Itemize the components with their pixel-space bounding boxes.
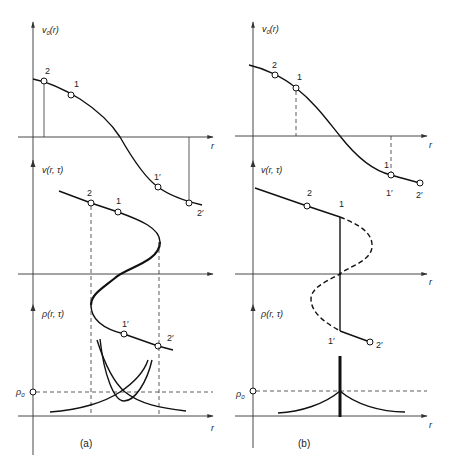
rho0-label-b: ρ0 (235, 389, 245, 400)
point-2prime-top-a (186, 200, 192, 206)
label-2-top-b: 2 (272, 60, 277, 70)
point-1prime-top-b (388, 172, 394, 178)
v-curve-upper-a (59, 191, 160, 242)
point-2prime-mid-b (367, 339, 373, 345)
caption-b: (b) (298, 438, 310, 449)
xlabel-top-b: r (429, 140, 433, 150)
label-1-mid-a: 1 (116, 196, 121, 206)
point-1-top-b (293, 85, 299, 91)
figure: v0(r) r v(r, τ) ρ(r, τ) r ρ0 2 1 2 1 1′ … (0, 0, 449, 468)
shock-axis-point-b (339, 273, 341, 275)
xlabel-middle-b: r (429, 277, 433, 287)
rho0-point-a (30, 389, 36, 395)
point-2-mid-b (304, 203, 310, 209)
density-falling-a (97, 340, 186, 411)
label-2-mid-a: 2 (87, 188, 92, 198)
point-1prime-mid-a (121, 331, 127, 337)
v-curve-lower-a (91, 305, 173, 350)
label-1-top-b: 1 (297, 72, 302, 82)
label-2-mid-b: 2 (307, 188, 312, 198)
ylabel-bottom-a: ρ(r, τ) (41, 309, 64, 319)
xlabel-top-a: r (211, 141, 215, 151)
xlabel-bottom-b: r (429, 420, 433, 430)
label-2prime-mid-a: 2′ (167, 333, 174, 343)
label-2prime-mid-b: 2′ (376, 340, 383, 350)
caption-a: (a) (80, 438, 92, 449)
label-1prime-top-a: 1′ (154, 172, 161, 182)
point-2prime-top-b (417, 180, 423, 186)
point-2-top-a (41, 78, 47, 84)
label-2prime-top-b: 2′ (416, 190, 423, 200)
v0-curve-a (33, 79, 202, 205)
point-1prime-top-a (155, 184, 161, 190)
arrowhead-middle-b (251, 160, 256, 167)
point-2-mid-a (88, 200, 94, 206)
point-1-top-a (68, 92, 74, 98)
label-1-mid-b: 1 (339, 199, 344, 209)
ylabel-middle-b: v(r, τ) (261, 165, 282, 175)
panel-b: v0(r) r v(r, τ) r ρ(r, τ) r ρ0 2 1 1 1′ … (235, 22, 433, 449)
point-2-top-b (272, 72, 278, 78)
label-2-top-a: 2 (45, 66, 50, 76)
rho0-label-a: ρ0 (15, 387, 25, 398)
density-rising-a (50, 360, 148, 412)
ylabel-top-b: v0(r) (262, 24, 279, 35)
v-curve-lower-b (340, 331, 370, 342)
panel-a: v0(r) r v(r, τ) ρ(r, τ) r ρ0 2 1 2 1 1′ … (15, 22, 215, 455)
label-1-top-a: 1 (74, 79, 79, 89)
label-1-upper-b: 1 (384, 160, 389, 170)
xlabel-bottom-a: r (211, 423, 215, 433)
label-1prime-mid-b: 1′ (328, 336, 335, 346)
rho0-point-b (250, 388, 256, 394)
arrowhead-bottom-a (31, 304, 36, 311)
ylabel-top-a: v0(r) (42, 25, 59, 36)
point-1-mid-a (115, 209, 121, 215)
v-curve-upper-b (255, 188, 340, 217)
arrowhead-bottom-b (251, 304, 256, 311)
v-curve-fold-a (91, 242, 160, 305)
ylabel-bottom-b: ρ(r, τ) (260, 309, 283, 319)
ylabel-middle-a: v(r, τ) (42, 165, 63, 175)
arrowhead-middle-a (31, 160, 36, 167)
label-2prime-top-a: 2′ (197, 208, 204, 218)
point-2prime-mid-a (155, 343, 161, 349)
label-1prime-mid-a: 1′ (122, 319, 129, 329)
label-1prime-top-b: 1′ (386, 188, 393, 198)
